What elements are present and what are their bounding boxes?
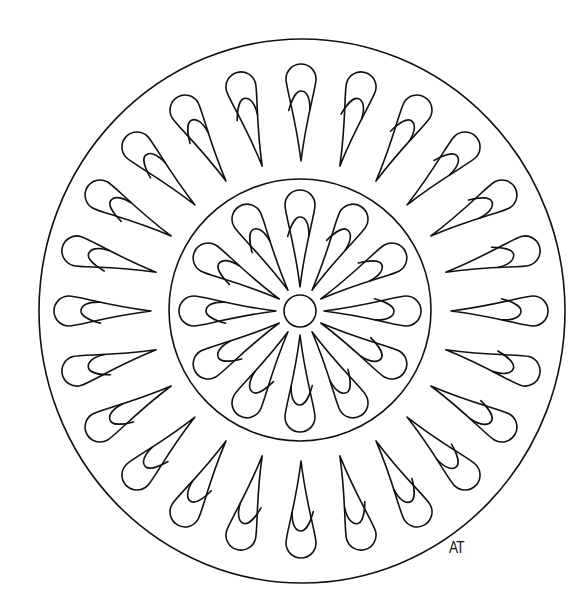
outer-petal-outline [59, 233, 160, 287]
outer-petal-inner-arch [183, 480, 211, 507]
outer-petal-outline [325, 452, 379, 553]
outer-petal [286, 461, 316, 558]
outer-petal-outline [442, 233, 543, 287]
outer-petal [442, 233, 543, 287]
outer-petal [59, 233, 160, 287]
outer-petal [165, 433, 239, 532]
outer-petal-inner-arch [391, 114, 419, 141]
outer-petal-outline [442, 335, 543, 389]
outer-petal [286, 64, 316, 161]
outer-petal [59, 335, 160, 389]
outer-petal-inner-arch [344, 501, 369, 525]
center-circle [284, 295, 316, 327]
outer-petal [80, 175, 179, 249]
inner-petal [324, 296, 421, 326]
outer-petal-outline [325, 69, 379, 170]
outer-petal-inner-arch [232, 96, 257, 120]
inner-petal-outline [324, 296, 421, 326]
outer-petal-inner-arch [86, 354, 110, 379]
inner-petal [285, 190, 315, 287]
inner-petal [179, 296, 276, 326]
outer-petal-inner-arch [470, 401, 497, 429]
outer-petal [54, 296, 151, 326]
inner-petal-outline [179, 296, 276, 326]
outer-petal [80, 373, 179, 447]
outer-petal [363, 433, 437, 532]
outer-petal [223, 452, 277, 553]
outer-petal-outline [363, 90, 437, 189]
outer-petal [423, 373, 522, 447]
outer-petal-inner-arch [104, 193, 131, 221]
inner-ring [169, 179, 431, 441]
inner-petal-outline [285, 190, 315, 287]
outer-petal-outline [451, 296, 548, 326]
inner-petal-inner-arch [360, 338, 387, 366]
inner-petal-inner-arch [245, 371, 273, 398]
outer-petal-outline [363, 433, 437, 532]
outer-petal-outline [286, 64, 316, 161]
outer-petal-outline [223, 69, 277, 170]
outer-petal [451, 296, 548, 326]
outer-petal [325, 69, 379, 170]
outer-petal [165, 90, 239, 189]
outer-petal-outline [423, 373, 522, 447]
mandala-drawing [0, 0, 571, 609]
inner-petal [285, 335, 315, 432]
artist-signature: AT [449, 538, 464, 558]
outer-petal-outline [286, 461, 316, 558]
outer-petal-outline [165, 90, 239, 189]
inner-petal-ring [179, 190, 421, 432]
outer-petal-outline [165, 433, 239, 532]
outer-petal-ring [54, 64, 548, 558]
outer-petal-inner-arch [491, 242, 515, 267]
inner-petal-outline [285, 335, 315, 432]
inner-petal-inner-arch [327, 223, 355, 250]
outer-petal [223, 69, 277, 170]
outer-petal [442, 335, 543, 389]
outer-petal [363, 90, 437, 189]
outer-petal-outline [223, 452, 277, 553]
outer-petal-outline [80, 175, 179, 249]
outer-petal-outline [80, 373, 179, 447]
outer-petal-outline [59, 335, 160, 389]
outer-petal-outline [54, 296, 151, 326]
outer-petal [325, 452, 379, 553]
outer-petal [423, 175, 522, 249]
outer-petal-outline [423, 175, 522, 249]
outer-ring [39, 39, 565, 583]
inner-petal-inner-arch [212, 256, 239, 284]
